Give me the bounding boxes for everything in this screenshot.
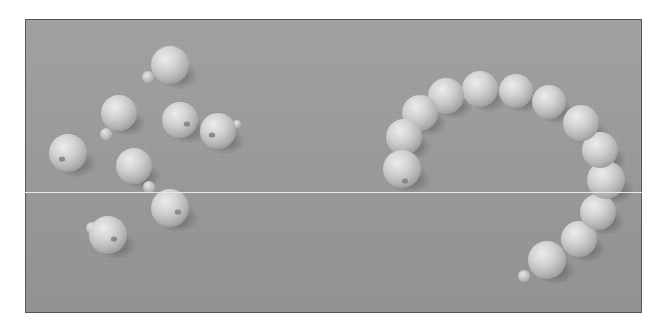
bead-socket-hole bbox=[59, 156, 65, 161]
bead-sphere bbox=[462, 71, 498, 107]
bead-stem-nub bbox=[518, 270, 530, 282]
bead-socket-hole bbox=[184, 121, 190, 126]
bead-sphere bbox=[580, 194, 616, 230]
bead-sphere bbox=[49, 134, 87, 172]
bead-stem-nub bbox=[142, 71, 154, 83]
pop-bead bbox=[162, 102, 198, 138]
bead-socket-hole bbox=[209, 132, 215, 137]
bead-sphere bbox=[151, 46, 189, 84]
bead-chain-group bbox=[383, 71, 625, 282]
pop-bead bbox=[200, 113, 236, 149]
bead-sphere bbox=[386, 119, 422, 155]
beads-scene bbox=[0, 0, 665, 323]
bead-sphere bbox=[101, 95, 137, 131]
bead-sphere bbox=[499, 74, 533, 108]
bead-sphere bbox=[563, 105, 599, 141]
pop-bead bbox=[89, 216, 127, 254]
pop-bead bbox=[383, 150, 421, 188]
bead-socket-hole bbox=[175, 209, 181, 214]
pop-bead bbox=[528, 241, 566, 279]
pop-bead bbox=[386, 119, 422, 155]
pop-bead bbox=[563, 105, 599, 141]
pop-bead bbox=[580, 194, 616, 230]
pop-bead bbox=[49, 134, 87, 172]
bead-sphere bbox=[116, 148, 152, 184]
pop-bead bbox=[499, 74, 533, 108]
bead-stem-nub bbox=[100, 128, 112, 140]
scanline-artifact bbox=[25, 192, 642, 193]
pop-bead bbox=[151, 46, 189, 84]
bead-socket-hole bbox=[402, 178, 408, 183]
pop-bead bbox=[101, 95, 137, 131]
bead-socket-hole bbox=[111, 236, 117, 241]
photo-stage bbox=[0, 0, 665, 323]
bead-sphere bbox=[162, 102, 198, 138]
bead-sphere bbox=[383, 150, 421, 188]
bead-sphere bbox=[532, 85, 566, 119]
bead-sphere bbox=[200, 113, 236, 149]
pop-bead bbox=[462, 71, 498, 107]
bead-sphere bbox=[151, 189, 189, 227]
bead-sphere bbox=[89, 216, 127, 254]
pop-bead bbox=[116, 148, 152, 184]
bead-sphere bbox=[528, 241, 566, 279]
pop-bead bbox=[532, 85, 566, 119]
pop-bead bbox=[151, 189, 189, 227]
